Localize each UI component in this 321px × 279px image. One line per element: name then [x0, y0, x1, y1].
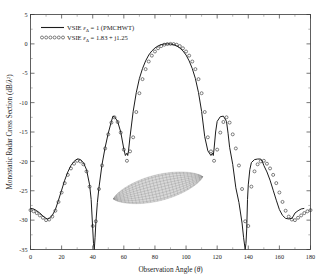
y-tick-label: -25	[19, 187, 27, 194]
x-tick-label: 140	[244, 253, 253, 260]
x-tick-label: 40	[90, 253, 96, 260]
plot-area-background	[31, 15, 311, 250]
x-tick-label: 120	[213, 253, 222, 260]
x-tick-label: 180	[306, 253, 315, 260]
y-tick-label: 0	[24, 40, 27, 47]
figure-canvas: 020406080100120140160180 50-5-10-15-20-2…	[0, 0, 321, 279]
x-tick-label: 0	[29, 253, 32, 260]
y-tick-label: -35	[19, 246, 27, 253]
y-axis-tick-labels: 50-5-10-15-20-25-30-35	[19, 11, 27, 253]
x-tick-label: 60	[121, 253, 127, 260]
x-tick-label: 160	[275, 253, 284, 260]
y-tick-label: -5	[22, 69, 27, 76]
y-tick-label: -20	[19, 158, 27, 165]
x-tick-label: 100	[181, 253, 190, 260]
x-axis-title: Observation Angle (θ)	[138, 266, 203, 274]
y-tick-label: -10	[19, 99, 27, 106]
rcs-chart: 020406080100120140160180 50-5-10-15-20-2…	[0, 0, 321, 279]
y-axis-title: Monostatic Radar Cross Section (dB/λ2)	[6, 74, 14, 190]
y-tick-label: 5	[24, 11, 27, 18]
y-tick-label: -15	[19, 128, 27, 135]
y-tick-label: -30	[19, 216, 27, 223]
x-axis-tick-labels: 020406080100120140160180	[29, 253, 315, 260]
x-tick-label: 20	[59, 253, 65, 260]
x-tick-label: 80	[152, 253, 158, 260]
